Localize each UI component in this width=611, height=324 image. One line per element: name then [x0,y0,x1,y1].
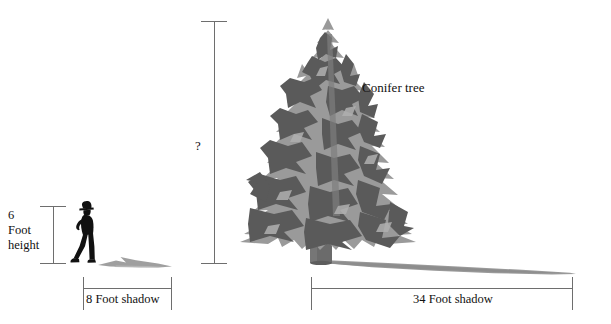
person-shadow [96,250,174,274]
tree-foliage [228,16,428,254]
person-height-bottom-tick [40,263,66,264]
tree-shadow-right-tick [572,277,573,310]
tree-shadow-dimension-line [311,288,573,289]
person-shadow-label: 8 Foot shadow [86,292,160,307]
tree-height-unknown-label: ? [195,138,201,153]
person-height-dimension-line [53,206,54,263]
tree-name-label: Conifer tree [362,80,424,95]
tree-shadow [308,253,580,283]
person-height-label: 6 Foot height [8,208,39,252]
person-height-top-tick [40,206,66,207]
person-shadow-right-tick [171,277,172,310]
tree-shadow-label: 34 Foot shadow [413,292,493,307]
tree-height-bottom-tick [201,263,227,264]
tree-height-dimension-line [214,21,215,263]
tree-height-top-tick [201,21,227,22]
diagram-canvas: 6 Foot height 8 Foo [0,0,611,324]
person-shadow-dimension-line [83,288,172,289]
tree-shadow-left-tick [311,277,312,310]
person-shadow-left-tick [83,277,84,310]
